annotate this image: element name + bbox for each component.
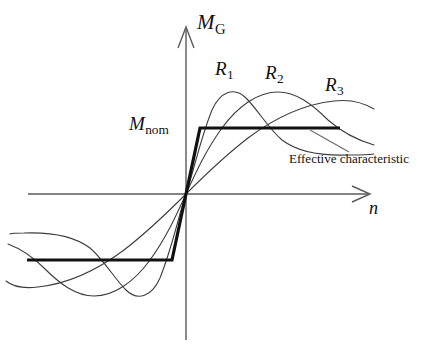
curve-label-r1: R1 xyxy=(215,59,234,78)
y-axis-label: MG xyxy=(197,12,226,33)
curve-label-r1-subscript: 1 xyxy=(227,67,234,82)
nominal-torque-label-subscript: nom xyxy=(145,122,169,137)
curve-r3-negative xyxy=(6,194,186,288)
curve-label-r3-subscript: 3 xyxy=(337,83,344,98)
curve-r1-positive xyxy=(186,92,374,194)
diagram-canvas xyxy=(0,0,434,354)
curve-label-r2-main: R xyxy=(265,62,277,83)
curve-label-r3-main: R xyxy=(325,74,337,95)
x-axis-label: n xyxy=(369,199,378,217)
curve-label-r1-main: R xyxy=(215,58,227,79)
curve-label-r3: R3 xyxy=(325,75,344,94)
curve-r2-positive xyxy=(186,92,374,194)
figure-container: MG Mnom R1 R2 R3 n Effective characteris… xyxy=(0,0,434,354)
curve-label-r2: R2 xyxy=(265,63,284,82)
curve-r3-positive xyxy=(186,100,374,194)
nominal-torque-label: Mnom xyxy=(129,114,169,133)
nominal-torque-label-main: M xyxy=(129,113,145,134)
y-axis-label-subscript: G xyxy=(215,21,226,37)
effective-characteristic-annotation: Effective characteristic xyxy=(289,152,409,165)
curve-label-r2-subscript: 2 xyxy=(277,71,284,86)
annotation-leader-line xyxy=(310,130,349,152)
y-axis-label-main: M xyxy=(197,10,215,34)
